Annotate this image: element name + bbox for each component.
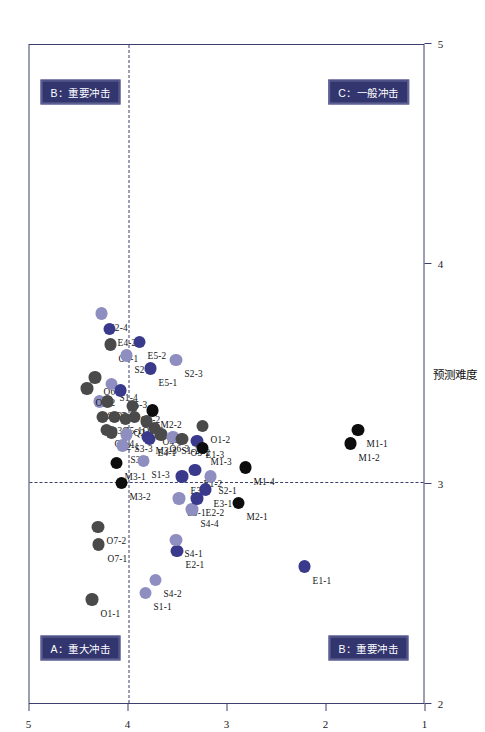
- scatter-point: [169, 354, 181, 366]
- scatter-point: [80, 382, 92, 394]
- scatter-point: [154, 428, 166, 440]
- scatter-point-label: O1-1: [100, 609, 120, 619]
- y-axis-tick: [325, 704, 326, 711]
- y-axis-tick: [127, 704, 128, 711]
- scatter-point: [92, 538, 104, 550]
- scatter-point: [91, 521, 103, 533]
- scatter-point-label: E1-1: [312, 576, 331, 586]
- scatter-point: [101, 395, 113, 407]
- x-axis-tick-label: 4: [437, 258, 443, 270]
- scatter-point-label: S4-2: [163, 589, 181, 599]
- scatter-point: [128, 411, 140, 423]
- y-axis-tick-label: 4: [124, 718, 130, 730]
- y-axis-tick: [28, 704, 29, 711]
- scatter-point: [88, 371, 100, 383]
- scatter-point: [143, 433, 155, 445]
- scatter-point: [105, 426, 117, 438]
- scatter-point: [196, 420, 208, 432]
- scatter-point: [139, 587, 151, 599]
- scatter-point: [137, 455, 149, 467]
- scatter-point-label: O1-2: [210, 435, 230, 445]
- scatter-point: [172, 492, 184, 504]
- scatter-point: [116, 439, 128, 451]
- scatter-point-label: E5-2: [147, 351, 166, 361]
- scatter-point: [95, 307, 107, 319]
- scatter-point: [344, 437, 356, 449]
- chart-canvas: O1-1O7-1O7-2S1-1S4-2M3-2M3-1O2-4O3-1S4-3…: [0, 0, 485, 732]
- scatter-point-label: O7-2: [106, 536, 126, 546]
- x-axis-tick-label: 3: [437, 478, 443, 490]
- scatter-point: [120, 428, 132, 440]
- scatter-point: [120, 349, 132, 361]
- scatter-point: [298, 560, 310, 572]
- x-axis-tick: [424, 483, 431, 484]
- y-axis-tick-label: 3: [223, 718, 229, 730]
- scatter-point: [144, 362, 156, 374]
- scatter-point: [149, 574, 161, 586]
- scatter-point: [169, 534, 181, 546]
- scatter-point: [103, 323, 115, 335]
- scatter-point: [146, 404, 158, 416]
- x-axis-tick-label: 5: [437, 38, 443, 50]
- scatter-point: [110, 457, 122, 469]
- reference-line-vertical: [29, 482, 423, 483]
- scatter-point-label: M3-2: [129, 492, 150, 502]
- x-axis-tick: [424, 263, 431, 264]
- scatter-point-label: S4-1: [184, 549, 202, 559]
- scatter-point-label: E3-1: [213, 499, 232, 509]
- scatter-point-label: M1-4: [253, 477, 274, 487]
- plot-area: O1-1O7-1O7-2S1-1S4-2M3-2M3-1O2-4O3-1S4-3…: [28, 44, 424, 704]
- scatter-point-label: E2-2: [205, 508, 224, 518]
- x-axis-tick-label: 2: [437, 698, 443, 710]
- scatter-point: [85, 593, 97, 605]
- scatter-point: [185, 503, 197, 515]
- scatter-point-label: M1-1: [366, 439, 387, 449]
- x-axis-title: 预测难度: [432, 366, 476, 382]
- y-axis-tick-label: 1: [421, 718, 427, 730]
- scatter-point: [175, 433, 187, 445]
- y-axis-tick: [424, 704, 425, 711]
- scatter-point-label: S2-1: [218, 486, 236, 496]
- scatter-point-label: M1-3: [210, 457, 231, 467]
- scatter-point: [175, 470, 187, 482]
- quadrant-badge-b-bottom: B：重要冲击: [328, 636, 408, 661]
- scatter-point: [188, 464, 200, 476]
- y-axis-tick-label: 5: [25, 718, 31, 730]
- scatter-point: [351, 424, 363, 436]
- scatter-point-label: E2-1: [185, 560, 204, 570]
- scatter-point-label: M2-1: [246, 512, 267, 522]
- scatter-point-label: S2-3: [184, 369, 202, 379]
- scatter-point: [239, 461, 251, 473]
- scatter-point-label: S4-4: [200, 519, 218, 529]
- scatter-point: [170, 545, 182, 557]
- scatter-point: [114, 384, 126, 396]
- scatter-point-label: M3-1: [124, 472, 145, 482]
- scatter-point-label: S1-3: [151, 470, 169, 480]
- scatter-point-label: E5-1: [158, 378, 177, 388]
- scatter-point: [104, 338, 116, 350]
- quadrant-badge-a: A：重大冲击: [40, 636, 120, 661]
- scatter-point-label: O7-1: [107, 554, 127, 564]
- y-axis-tick-label: 2: [322, 718, 328, 730]
- scatter-point: [196, 442, 208, 454]
- rotated-chart-container: O1-1O7-1O7-2S1-1S4-2M3-2M3-1O2-4O3-1S4-3…: [0, 0, 485, 732]
- scatter-point-label: M1-2: [358, 453, 379, 463]
- x-axis-tick: [424, 43, 431, 44]
- scatter-point: [204, 470, 216, 482]
- scatter-point: [108, 411, 120, 423]
- reference-line-horizontal: [128, 45, 129, 703]
- y-axis-tick: [226, 704, 227, 711]
- quadrant-badge-b-top: B：重要冲击: [40, 80, 120, 105]
- scatter-point: [199, 483, 211, 495]
- scatter-point-label: S3-3: [134, 444, 152, 454]
- quadrant-badge-c: C：一般冲击: [328, 80, 409, 105]
- scatter-point-label: S1-1: [153, 602, 171, 612]
- scatter-point: [232, 497, 244, 509]
